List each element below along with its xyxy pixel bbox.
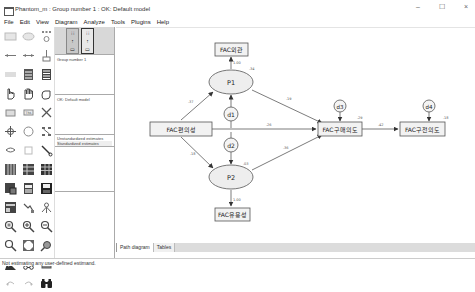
model-item[interactable]: OK: Default model <box>57 97 112 102</box>
svg-text:d4: d4 <box>426 104 433 110</box>
change-shape-icon[interactable] <box>1 122 19 141</box>
save-diagram-icon[interactable] <box>37 179 55 198</box>
reflect-indicators-icon[interactable] <box>37 122 55 141</box>
app-icon <box>4 5 12 13</box>
label-p2-purchase: .36 <box>283 146 289 150</box>
draw-indicator-icon[interactable] <box>37 27 55 46</box>
figure-caption-icon[interactable] <box>1 65 19 84</box>
status-bar: Not estimating any user-defined estimand… <box>0 258 475 266</box>
node-fac-recommend[interactable]: FAC구전의도 <box>400 122 445 136</box>
menu-edit[interactable]: Edit <box>17 17 33 27</box>
draw-unobserved-icon[interactable] <box>19 27 37 46</box>
view-input-button[interactable]: ⁝⁝ ↑ ▭ <box>66 28 79 54</box>
copy-clipboard-icon[interactable] <box>19 179 37 198</box>
draw-covariance-icon[interactable] <box>19 46 37 65</box>
node-d3[interactable]: d3 <box>334 100 346 112</box>
tab-tables[interactable]: Tables <box>154 243 175 252</box>
close-button[interactable]: × <box>461 3 471 11</box>
preserve-symmetries-icon[interactable] <box>37 198 55 217</box>
label-purchase-r2: .29 <box>357 116 363 120</box>
rotate-indicators-icon[interactable] <box>19 122 37 141</box>
tab-path-diagram[interactable]: Path diagram <box>117 243 154 252</box>
window-controls: – ☐ × <box>413 3 471 11</box>
path-diagram-canvas[interactable]: FAC외관 FAC편의성 FAC구매의도 FAC구전의도 FAC유용성 P <box>116 27 475 243</box>
svg-text:FAC구전의도: FAC구전의도 <box>405 126 440 134</box>
node-d2[interactable]: d2 <box>224 138 238 152</box>
draw-path-icon[interactable] <box>1 46 19 65</box>
node-d1[interactable]: d1 <box>224 107 238 121</box>
zoom-page-icon[interactable] <box>1 236 19 255</box>
object-properties-icon[interactable] <box>1 198 19 217</box>
node-fac-usefulness[interactable]: FAC유용성 <box>215 208 250 221</box>
move-icon[interactable]: TRK <box>19 103 37 122</box>
unique-variable-icon[interactable] <box>37 46 55 65</box>
node-p1[interactable]: P1 <box>209 70 253 94</box>
node-fac-external[interactable]: FAC외관 <box>215 43 248 56</box>
redo-icon[interactable] <box>19 274 37 292</box>
zoom-area-icon[interactable] <box>1 217 19 236</box>
label-p2-usefulness: 1.00 <box>233 198 241 202</box>
loupe-icon[interactable] <box>37 236 55 255</box>
menu-tools[interactable]: Tools <box>108 17 128 27</box>
menu-file[interactable]: File <box>0 17 17 27</box>
view-output-button[interactable]: ⁝⁝ ↑ ▭ <box>81 28 94 54</box>
drag-properties-icon[interactable] <box>19 198 37 217</box>
estimates-list: Unstandardized estimates Standardized es… <box>55 135 114 147</box>
view-text-icon[interactable] <box>1 179 19 198</box>
select-data-files-icon[interactable] <box>1 160 19 179</box>
label-purchase-recommend: .42 <box>378 123 384 127</box>
svg-text:FAC편의성: FAC편의성 <box>166 126 195 134</box>
window-title: Phantom_m : Group number 1 : OK: Default… <box>15 6 150 12</box>
input-box-icon: ▭ <box>70 46 75 52</box>
menu-help[interactable]: Help <box>154 17 172 27</box>
fit-page-icon[interactable] <box>19 236 37 255</box>
list-variables-model-icon[interactable] <box>19 65 37 84</box>
specification-search-icon[interactable] <box>37 274 55 292</box>
draw-observed-icon[interactable] <box>1 27 19 46</box>
label-recommend-r2: .18 <box>443 116 449 120</box>
svg-text:FAC외관: FAC외관 <box>220 46 243 54</box>
standardized-estimates-option[interactable]: Standardized estimates <box>57 141 112 146</box>
menu-bar: File Edit View Diagram Analyze Tools Plu… <box>0 17 172 27</box>
zoom-out-icon[interactable] <box>37 217 55 236</box>
select-one-icon[interactable] <box>1 84 19 103</box>
label-external-r2: .34 <box>249 67 255 71</box>
files-list <box>55 192 114 242</box>
node-p2[interactable]: P2 <box>209 165 253 189</box>
list-variables-dataset-icon[interactable] <box>37 65 55 84</box>
move-parameters-icon[interactable] <box>1 141 19 160</box>
deselect-all-icon[interactable] <box>37 84 55 103</box>
scroll-icon[interactable] <box>19 141 37 160</box>
menu-plugins[interactable]: Plugins <box>128 17 154 27</box>
undo-icon[interactable] <box>1 274 19 292</box>
models-list: OK: Default model <box>55 95 114 135</box>
analysis-properties-icon[interactable] <box>19 160 37 179</box>
node-d4[interactable]: d4 <box>423 100 435 112</box>
path-diagram: FAC외관 FAC편의성 FAC구매의도 FAC구전의도 FAC유용성 P <box>116 28 475 244</box>
maximize-button[interactable]: ☐ <box>437 3 447 11</box>
svg-text:d2: d2 <box>227 142 235 149</box>
node-fac-purchase[interactable]: FAC구매의도 <box>318 122 362 136</box>
minimize-button[interactable]: – <box>413 3 423 11</box>
menu-view[interactable]: View <box>33 17 52 27</box>
label-conv-purchase: .26 <box>266 123 272 127</box>
calculate-estimates-icon[interactable] <box>37 160 55 179</box>
menu-diagram[interactable]: Diagram <box>52 17 81 27</box>
svg-text:P2: P2 <box>227 174 235 182</box>
computation-summary-box <box>55 147 114 192</box>
touch-up-icon[interactable] <box>37 141 55 160</box>
label-p1-external: 1.00 <box>233 61 241 65</box>
menu-analyze[interactable]: Analyze <box>81 17 108 27</box>
label-conv-p2: .18 <box>190 152 196 156</box>
output-arrow-icon: ↑ <box>86 38 89 44</box>
group-item[interactable]: Group number 1 <box>57 57 112 62</box>
node-fac-convenience[interactable]: FAC편의성 <box>150 122 212 136</box>
zoom-in-icon[interactable] <box>19 217 37 236</box>
erase-icon[interactable] <box>37 103 55 122</box>
diagram-tabs: Path diagram Tables <box>116 243 475 252</box>
select-all-icon[interactable] <box>19 84 37 103</box>
svg-text:P1: P1 <box>227 79 235 87</box>
duplicate-icon[interactable] <box>1 103 19 122</box>
svg-text:FAC유용성: FAC유용성 <box>218 211 247 219</box>
